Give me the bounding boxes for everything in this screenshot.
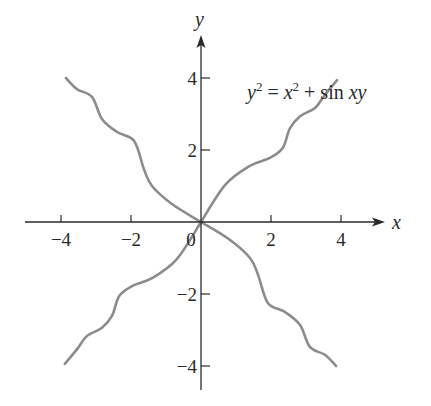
equation-annotation: y2=x2+sinxy bbox=[245, 79, 367, 104]
y-axis-label: y bbox=[193, 8, 204, 31]
y-tick-label: −2 bbox=[177, 284, 197, 305]
x-tick-label: −4 bbox=[51, 229, 72, 250]
x-tick-label: 2 bbox=[266, 229, 276, 250]
eq-lhs-exp: 2 bbox=[256, 79, 263, 94]
eq-plus: + bbox=[304, 81, 315, 103]
eq-rhs-exp: 2 bbox=[293, 79, 300, 94]
x-tick-label: −2 bbox=[121, 229, 141, 250]
y-tick-label: 2 bbox=[188, 140, 198, 161]
eq-arg: xy bbox=[348, 81, 367, 104]
implicit-curve-plot: −4−2024−4−224 x y y2=x2+sinxy bbox=[0, 0, 431, 406]
eq-equals: = bbox=[267, 81, 278, 103]
x-axis-label: x bbox=[391, 211, 401, 233]
y-tick-label: −4 bbox=[177, 356, 198, 377]
eq-rhs-var: x bbox=[283, 81, 293, 103]
eq-lhs-var: y bbox=[245, 81, 256, 104]
x-tick-label: 4 bbox=[336, 229, 346, 250]
x-tick-label: 0 bbox=[186, 229, 196, 250]
curve-branch bbox=[66, 78, 201, 222]
eq-func: sin bbox=[320, 81, 343, 103]
y-tick-label: 4 bbox=[188, 68, 198, 89]
